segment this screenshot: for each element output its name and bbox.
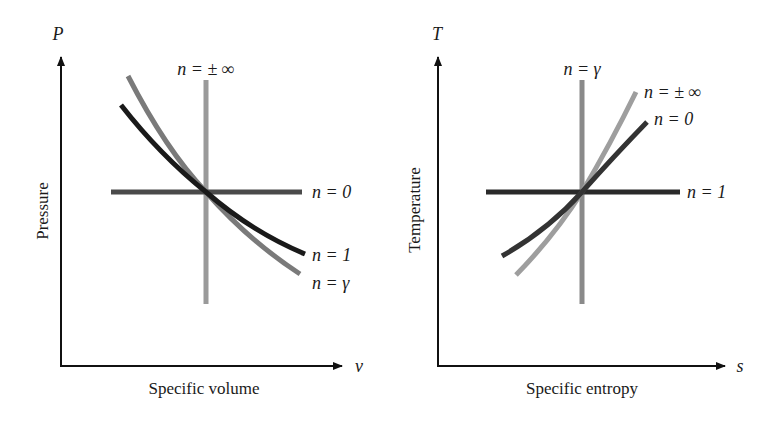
pv-curve-n-1 — [121, 105, 305, 254]
pv-label-n-gamma: n = γ — [312, 273, 350, 293]
pv-x-symbol: v — [355, 356, 363, 376]
pv-y-title: Pressure — [33, 182, 52, 240]
ts-x-title: Specific entropy — [526, 379, 638, 398]
ts-label-n-0: n = 0 — [654, 109, 693, 129]
ts-label-n-infinity: n = ± ∞ — [644, 82, 701, 102]
pv-curve-n-gamma — [128, 76, 300, 274]
ts-y-title: Temperature — [405, 167, 424, 253]
ts-curve-n-0 — [502, 122, 647, 256]
pv-x-title: Specific volume — [149, 379, 260, 398]
pv-label-n-0: n = 0 — [312, 182, 351, 202]
pv-y-symbol: P — [52, 24, 64, 44]
ts-label-n-gamma: n = γ — [563, 59, 601, 79]
ts-curve-n-infinity — [516, 92, 636, 275]
ts-label-n-1: n = 1 — [687, 182, 726, 202]
pv-diagram: P v Pressure Specific volume n = ± ∞ n =… — [33, 24, 363, 398]
ts-x-symbol: s — [736, 356, 743, 376]
ts-y-symbol: T — [432, 24, 444, 44]
ts-diagram: T s Temperature Specific entropy n = γ n… — [405, 24, 744, 398]
pv-label-n-infinity: n = ± ∞ — [177, 59, 234, 79]
polytropic-process-figure: P v Pressure Specific volume n = ± ∞ n =… — [0, 0, 782, 434]
pv-label-n-1: n = 1 — [312, 245, 351, 265]
